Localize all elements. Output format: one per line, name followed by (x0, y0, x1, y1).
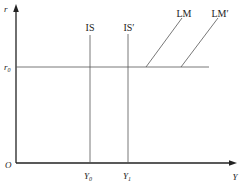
r0-label: r0 (4, 62, 11, 73)
origin-label: O (5, 160, 12, 170)
is-lm-diagram: r r0 O IS IS′ LM LM′ Y0 Y1 Y (0, 0, 242, 186)
lm-curve (146, 18, 182, 67)
x-axis-label: Y (232, 172, 238, 182)
x-axis-arrow-icon (229, 160, 237, 166)
y1-label: Y1 (123, 171, 131, 182)
y0-label: Y0 (84, 171, 92, 182)
y1-label-sub: 1 (128, 176, 131, 182)
r0-label-sub: 0 (8, 67, 11, 73)
y-axis-arrow-icon (13, 4, 19, 12)
lm-label: LM (177, 8, 192, 19)
lm-prime-curve (181, 18, 218, 67)
lm-prime-label: LM′ (211, 8, 228, 19)
y0-label-sub: 0 (89, 176, 92, 182)
y-axis-label: r (4, 4, 8, 14)
is-label: IS (86, 22, 95, 33)
is-prime-label: IS′ (123, 22, 134, 33)
